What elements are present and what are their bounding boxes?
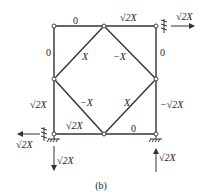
label-load-bottom-right-vertical: √2X bbox=[159, 153, 176, 163]
label-diagonal-bottom-right: X bbox=[124, 98, 130, 108]
label-diagonal-bottom-left: −X bbox=[80, 98, 93, 108]
label-left-upper-member: 0 bbox=[46, 48, 51, 58]
label-top-left-member: 0 bbox=[73, 16, 78, 26]
label-top-right-member: √2X bbox=[120, 13, 137, 23]
cut-mark-bottom-left bbox=[41, 127, 47, 141]
label-load-top-right: √2X bbox=[176, 12, 193, 22]
label-load-bottom-left-horizontal: √2X bbox=[16, 140, 33, 150]
label-diagonal-top-left: X bbox=[82, 52, 88, 62]
cut-mark-top-right bbox=[161, 19, 167, 33]
diagonal-members bbox=[54, 26, 156, 134]
label-bottom-left-member: √2X bbox=[66, 121, 83, 131]
frame-members bbox=[54, 26, 156, 134]
label-left-lower-member: √2X bbox=[30, 100, 47, 110]
label-right-lower-member: −√2X bbox=[160, 100, 183, 110]
truss-drawing bbox=[0, 0, 202, 196]
label-diagonal-top-right: −X bbox=[113, 52, 126, 62]
label-load-bottom-left-vertical: √2X bbox=[57, 156, 74, 166]
label-right-upper-member: 0 bbox=[160, 48, 165, 58]
support-bottom-right bbox=[149, 136, 162, 142]
figure-caption: (b) bbox=[0, 180, 202, 191]
label-bottom-right-member: 0 bbox=[131, 124, 136, 134]
support-bottom-left bbox=[47, 136, 60, 142]
